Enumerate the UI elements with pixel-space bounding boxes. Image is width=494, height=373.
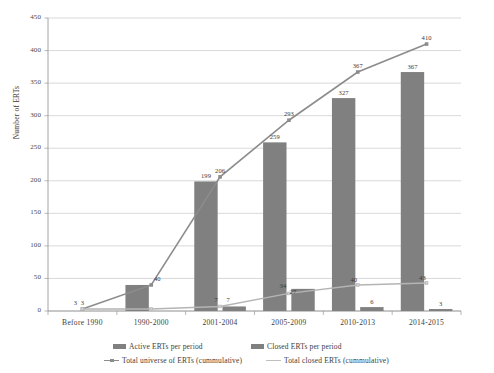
line-marker-icon xyxy=(104,357,119,364)
line-value-label: 40 xyxy=(334,276,374,283)
line-value-label: 7 xyxy=(208,296,248,303)
y-tick-label: 250 xyxy=(15,143,41,151)
bar-value-label: 3 xyxy=(421,300,461,307)
legend-item-active-erts: Active ERTs per period xyxy=(113,342,203,351)
bar-value-label: 259 xyxy=(255,133,295,140)
legend-label: Active ERTs per period xyxy=(129,342,203,351)
y-tick-label: 200 xyxy=(15,176,41,184)
legend-label: Total universe of ERTs (cummulative) xyxy=(122,356,242,365)
line-value-label: 27 xyxy=(273,288,313,295)
line-value-label: 40 xyxy=(137,275,177,282)
y-tick-label: 350 xyxy=(15,78,41,86)
axis-lines xyxy=(48,18,461,311)
line-value-label: 3 xyxy=(55,299,95,306)
bar-swatch-icon xyxy=(113,344,126,349)
y-tick-label: 100 xyxy=(15,241,41,249)
line-value-label: 367 xyxy=(338,62,378,69)
bar-value-label: 367 xyxy=(392,63,432,70)
y-tick-label: 400 xyxy=(15,46,41,54)
legend-label: Total closed ERTs (cummulative) xyxy=(284,356,389,365)
legend-item-total-closed: Total closed ERTs (cummulative) xyxy=(266,356,389,365)
y-tick-label: 50 xyxy=(15,273,41,281)
line-value-label: 206 xyxy=(200,167,240,174)
line-value-label: 410 xyxy=(407,34,447,41)
line-total-universe xyxy=(81,42,429,311)
gridlines xyxy=(48,18,461,311)
y-tick-label: 450 xyxy=(15,13,41,21)
line-icon xyxy=(266,357,281,364)
bar-value-label: 6 xyxy=(352,298,392,305)
x-tick-label: 2014-2015 xyxy=(382,318,472,327)
y-tick-label: 150 xyxy=(15,208,41,216)
y-tick-label: 0 xyxy=(15,306,41,314)
legend-label: Closed ERTs per period xyxy=(267,342,342,351)
legend-item-closed-erts: Closed ERTs per period xyxy=(251,342,342,351)
legend-item-total-universe: Total universe of ERTs (cummulative) xyxy=(104,356,242,365)
bar-swatch-icon xyxy=(251,344,264,349)
y-tick-label: 300 xyxy=(15,111,41,119)
bar-value-label: 327 xyxy=(324,89,364,96)
line-value-label: 293 xyxy=(269,110,309,117)
line-value-label: 43 xyxy=(403,274,443,281)
chart-container: Number of ERTs 0501001502002503003504004… xyxy=(0,0,494,373)
